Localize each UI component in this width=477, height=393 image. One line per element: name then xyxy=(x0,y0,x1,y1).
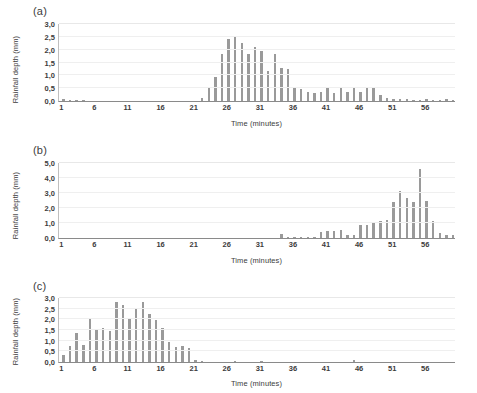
y-tick-label: 3,0 xyxy=(45,294,55,303)
panel-c: (c) Rainfall depth (mm) 0,00,51,01,52,02… xyxy=(0,276,477,393)
bar xyxy=(122,305,125,362)
x-tick-label: 6 xyxy=(92,364,96,373)
y-tick-label: 0,0 xyxy=(45,97,55,106)
x-axis-title-a: Time (minutes) xyxy=(58,119,455,128)
bar xyxy=(372,222,375,239)
x-tick-label: 1 xyxy=(59,364,63,373)
bar xyxy=(214,77,217,101)
x-tick-label: 56 xyxy=(421,103,429,112)
x-tick-label: 6 xyxy=(92,103,96,112)
y-tick-label: 0,5 xyxy=(45,347,55,356)
y-tick-label: 2,0 xyxy=(45,45,55,54)
panel-label-a: (a) xyxy=(33,5,47,17)
bars-b xyxy=(59,163,455,238)
bar xyxy=(181,346,184,362)
x-tick-label: 16 xyxy=(156,364,164,373)
bar xyxy=(109,331,112,362)
bar xyxy=(161,328,164,362)
gridline: 5,0 xyxy=(59,162,455,163)
y-tick-label: 2,0 xyxy=(45,204,55,213)
bar xyxy=(148,314,151,362)
x-tick-label: 41 xyxy=(322,103,330,112)
gridline: 4,0 xyxy=(59,177,455,178)
x-tick-label: 31 xyxy=(256,240,264,249)
bar xyxy=(89,319,92,362)
x-tick-label: 31 xyxy=(256,103,264,112)
x-tick-label: 56 xyxy=(421,364,429,373)
y-tick-label: 0,5 xyxy=(45,84,55,93)
gridline: 0,0 xyxy=(59,237,455,238)
bar xyxy=(260,51,263,101)
x-tick-label: 56 xyxy=(421,240,429,249)
y-axis-title-b: Rainfall depth (mm) xyxy=(11,158,20,254)
y-tick-label: 2,5 xyxy=(45,304,55,313)
gridline: 0,5 xyxy=(59,350,455,351)
gridline: 0,0 xyxy=(59,361,455,362)
y-tick-label: 2,0 xyxy=(45,315,55,324)
bar xyxy=(168,342,171,362)
bar xyxy=(95,330,98,362)
gridline: 0,0 xyxy=(59,100,455,101)
y-tick-label: 1,0 xyxy=(45,336,55,345)
gridline: 3,0 xyxy=(59,297,455,298)
y-tick-label: 0,0 xyxy=(45,234,55,243)
x-tick-label: 1 xyxy=(59,240,63,249)
gridline: 1,5 xyxy=(59,62,455,63)
gridline: 2,5 xyxy=(59,308,455,309)
bar xyxy=(280,68,283,101)
x-axis-title-b: Time (minutes) xyxy=(58,256,455,265)
x-tick-label: 16 xyxy=(156,103,164,112)
bar xyxy=(293,87,296,101)
bar xyxy=(379,221,382,238)
bar xyxy=(419,169,422,238)
y-tick-label: 5,0 xyxy=(45,159,55,168)
x-tick-label: 21 xyxy=(189,103,197,112)
y-tick-label: 1,0 xyxy=(45,71,55,80)
x-tick-label: 26 xyxy=(223,103,231,112)
gridline: 2,0 xyxy=(59,318,455,319)
x-tick-label: 51 xyxy=(388,103,396,112)
x-tick-label: 11 xyxy=(124,103,132,112)
rainfall-hyetograph-figure: (a) Rainfall depth (mm) 0,00,51,01,52,02… xyxy=(0,0,477,393)
x-tick-label: 46 xyxy=(355,240,363,249)
x-tick-label: 1 xyxy=(59,103,63,112)
gridline: 1,5 xyxy=(59,329,455,330)
x-tick-label: 51 xyxy=(388,364,396,373)
y-tick-label: 0,0 xyxy=(45,358,55,367)
gridline: 0,5 xyxy=(59,87,455,88)
bar xyxy=(241,43,244,101)
x-tick-label: 51 xyxy=(388,240,396,249)
bar xyxy=(102,328,105,362)
panel-a: (a) Rainfall depth (mm) 0,00,51,01,52,02… xyxy=(0,0,477,140)
gridline: 3,0 xyxy=(59,192,455,193)
bar xyxy=(234,36,237,101)
y-tick-label: 2,5 xyxy=(45,32,55,41)
y-tick-label: 1,0 xyxy=(45,219,55,228)
bar xyxy=(432,221,435,238)
x-tick-label: 36 xyxy=(289,240,297,249)
gridline: 2,5 xyxy=(59,36,455,37)
x-tick-label: 36 xyxy=(289,364,297,373)
x-tick-label: 6 xyxy=(92,240,96,249)
bar xyxy=(359,225,362,239)
x-tick-label: 26 xyxy=(223,240,231,249)
bar xyxy=(82,345,85,362)
y-tick-label: 1,5 xyxy=(45,58,55,67)
bar xyxy=(69,346,72,362)
plot-area-a: 0,00,51,01,52,02,53,0 xyxy=(58,24,455,102)
x-tick-label: 31 xyxy=(256,364,264,373)
bar xyxy=(399,191,402,238)
gridline: 2,0 xyxy=(59,49,455,50)
x-tick-label: 41 xyxy=(322,240,330,249)
gridline: 2,0 xyxy=(59,207,455,208)
x-tick-label: 41 xyxy=(322,364,330,373)
x-axis-title-c: Time (minutes) xyxy=(58,379,455,388)
x-tick-label: 21 xyxy=(189,240,197,249)
gridline: 1,0 xyxy=(59,74,455,75)
y-tick-label: 3,0 xyxy=(45,189,55,198)
y-tick-label: 3,0 xyxy=(45,20,55,29)
x-tick-label: 16 xyxy=(156,240,164,249)
panel-label-c: (c) xyxy=(33,280,46,292)
gridline: 1,0 xyxy=(59,340,455,341)
bar xyxy=(175,347,178,362)
